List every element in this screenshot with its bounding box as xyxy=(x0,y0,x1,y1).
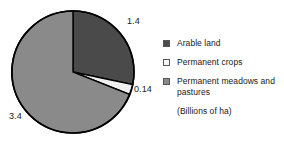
legend-swatch-icon-arable-land xyxy=(163,40,170,47)
data-label-arable-land: 1.4 xyxy=(127,17,140,26)
legend-label-permanent-crops: Permanent crops xyxy=(177,57,242,68)
legend-item-permanent-meadows-pastures[interactable]: Permanent meadows and pastures xyxy=(163,76,284,98)
legend-item-arable-land[interactable]: Arable land xyxy=(163,38,284,49)
legend-unit-note: (Billions of ha) xyxy=(177,106,284,117)
legend-swatch-icon-permanent-meadows-pastures xyxy=(163,78,170,85)
data-label-permanent-crops: 0.14 xyxy=(134,85,152,94)
legend: Arable land Permanent crops Permanent me… xyxy=(163,38,284,117)
pie-plot-area: 1.4 0.14 3.4 xyxy=(0,0,160,143)
legend-swatch-icon-permanent-crops xyxy=(163,59,170,66)
pie-chart-figure: 1.4 0.14 3.4 Arable land Permanent crops… xyxy=(0,0,284,143)
data-label-permanent-meadows-pastures: 3.4 xyxy=(9,112,22,121)
legend-item-permanent-crops[interactable]: Permanent crops xyxy=(163,57,284,68)
legend-label-arable-land: Arable land xyxy=(177,38,221,49)
legend-label-permanent-meadows-pastures: Permanent meadows and pastures xyxy=(177,76,284,98)
